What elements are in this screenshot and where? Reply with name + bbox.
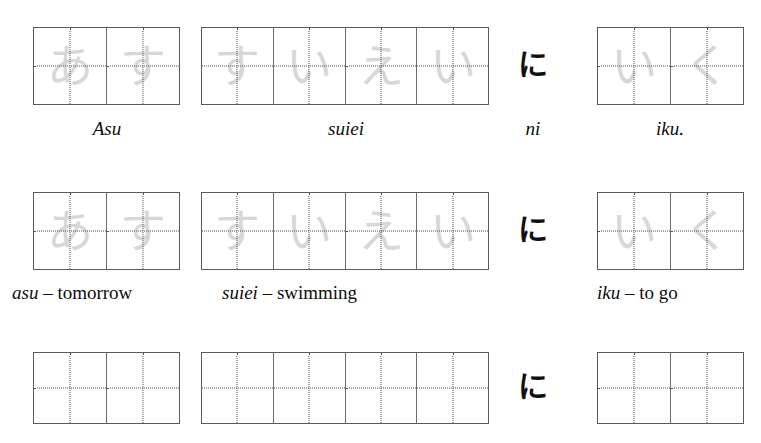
- caption-suiei-row2: suiei – swimming: [222, 283, 357, 302]
- separator-dash: –: [263, 282, 273, 303]
- separator-dash: –: [625, 282, 635, 303]
- grid-cell[interactable]: い: [274, 28, 346, 104]
- romaji-text: iku.: [656, 118, 684, 139]
- grid-cell[interactable]: [417, 353, 488, 423]
- romaji-text: suiei: [222, 282, 258, 303]
- grid-cell[interactable]: い: [598, 193, 671, 269]
- horizontal-guide-dots: [417, 231, 488, 232]
- grid-cell[interactable]: す: [202, 193, 274, 269]
- grid-cell[interactable]: い: [417, 28, 488, 104]
- grid-cell[interactable]: す: [107, 28, 179, 104]
- horizontal-guide-dots: [34, 388, 106, 389]
- grid-asu-row3[interactable]: [33, 352, 180, 424]
- grid-cell[interactable]: い: [598, 28, 671, 104]
- horizontal-guide-dots: [671, 231, 743, 232]
- gloss-text: to go: [639, 282, 678, 303]
- grid-cell[interactable]: [107, 353, 179, 423]
- grid-cell[interactable]: す: [107, 193, 179, 269]
- caption-suiei-row1: suiei: [328, 119, 364, 138]
- worksheet-page: あ す す い え い に: [0, 0, 761, 443]
- horizontal-guide-dots: [671, 66, 743, 67]
- horizontal-guide-dots: [274, 388, 345, 389]
- grid-suiei-row2[interactable]: す い え い: [201, 192, 489, 270]
- grid-cell[interactable]: い: [417, 193, 488, 269]
- romaji-text: suiei: [328, 118, 364, 139]
- caption-iku-row1: iku.: [656, 119, 684, 138]
- horizontal-guide-dots: [202, 231, 273, 232]
- particle-ni-row1: に: [518, 50, 548, 80]
- grid-suiei-row3[interactable]: [201, 352, 489, 424]
- horizontal-guide-dots: [417, 66, 488, 67]
- horizontal-guide-dots: [598, 388, 670, 389]
- caption-ni-row1: ni: [526, 119, 541, 138]
- grid-cell[interactable]: [202, 353, 274, 423]
- grid-asu-row1[interactable]: あ す: [33, 27, 180, 105]
- horizontal-guide-dots: [202, 388, 273, 389]
- grid-iku-row1[interactable]: い く: [597, 27, 744, 105]
- particle-ni-row3: に: [518, 372, 548, 402]
- grid-cell[interactable]: [274, 353, 346, 423]
- grid-cell[interactable]: [34, 353, 107, 423]
- horizontal-guide-dots: [274, 231, 345, 232]
- caption-asu-row2: asu – tomorrow: [12, 283, 132, 302]
- grid-cell[interactable]: あ: [34, 193, 107, 269]
- grid-suiei-row1[interactable]: す い え い: [201, 27, 489, 105]
- romaji-text: Asu: [93, 118, 122, 139]
- grid-asu-row2[interactable]: あ す: [33, 192, 180, 270]
- gloss-text: tomorrow: [57, 282, 132, 303]
- grid-cell[interactable]: あ: [34, 28, 107, 104]
- horizontal-guide-dots: [107, 388, 179, 389]
- particle-ni-row2: に: [518, 215, 548, 245]
- gloss-text: swimming: [277, 282, 357, 303]
- horizontal-guide-dots: [34, 231, 106, 232]
- grid-iku-row2[interactable]: い く: [597, 192, 744, 270]
- horizontal-guide-dots: [346, 388, 417, 389]
- grid-cell[interactable]: え: [346, 28, 418, 104]
- grid-cell[interactable]: く: [671, 193, 743, 269]
- horizontal-guide-dots: [107, 66, 179, 67]
- separator-dash: –: [43, 282, 53, 303]
- caption-iku-row2: iku – to go: [597, 283, 678, 302]
- grid-cell[interactable]: す: [202, 28, 274, 104]
- horizontal-guide-dots: [671, 388, 743, 389]
- horizontal-guide-dots: [202, 66, 273, 67]
- grid-iku-row3[interactable]: [597, 352, 744, 424]
- horizontal-guide-dots: [34, 66, 106, 67]
- grid-cell[interactable]: [346, 353, 418, 423]
- grid-cell[interactable]: え: [346, 193, 418, 269]
- grid-cell[interactable]: い: [274, 193, 346, 269]
- grid-cell[interactable]: [598, 353, 671, 423]
- horizontal-guide-dots: [598, 66, 670, 67]
- grid-cell[interactable]: く: [671, 28, 743, 104]
- horizontal-guide-dots: [417, 388, 488, 389]
- horizontal-guide-dots: [346, 231, 417, 232]
- horizontal-guide-dots: [598, 231, 670, 232]
- romaji-text: asu: [12, 282, 38, 303]
- caption-asu-row1: Asu: [93, 119, 122, 138]
- grid-cell[interactable]: [671, 353, 743, 423]
- romaji-text: ni: [526, 118, 541, 139]
- horizontal-guide-dots: [346, 66, 417, 67]
- romaji-text: iku: [597, 282, 620, 303]
- horizontal-guide-dots: [274, 66, 345, 67]
- horizontal-guide-dots: [107, 231, 179, 232]
